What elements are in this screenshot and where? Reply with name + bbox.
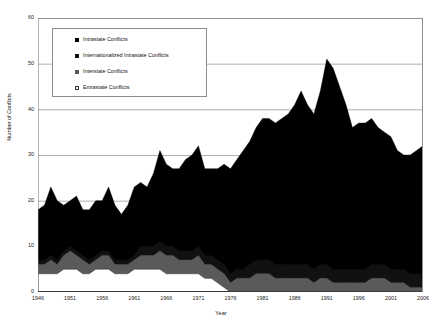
chart-legend: Intrastate ConflictsInternationalized In… [52, 28, 207, 97]
clipped-header-strip: ······· ···· ···· [0, 0, 442, 11]
y-axis-title: Number of Conflicts [6, 77, 12, 157]
x-tick-1976: 1976 [216, 296, 246, 301]
x-tick-2001: 2001 [376, 296, 406, 301]
legend-swatch-interstate-icon [75, 70, 79, 74]
chart-figure: ······· ···· ···· 60 50 40 30 20 10 0 Nu… [0, 0, 442, 326]
x-tick-1966: 1966 [151, 296, 181, 301]
y-tick-60: 60 [18, 15, 34, 20]
legend-swatch-extrastate-icon [75, 86, 79, 90]
legend-item-intrastate[interactable]: Intrastate Conflicts [75, 35, 128, 45]
x-tick-1991: 1991 [312, 296, 342, 301]
y-tick-0: 0 [18, 289, 34, 294]
y-tick-30: 30 [18, 152, 34, 157]
x-tick-1951: 1951 [55, 296, 85, 301]
clipped-header-text: ······· ···· ···· [258, 0, 307, 2]
legend-item-extrastate[interactable]: Extrastate Conflicts [75, 83, 129, 93]
legend-label-extrastate: Extrastate Conflicts [83, 85, 129, 90]
legend-label-internationalized: Internationalized Intrastate Conflicts [83, 53, 169, 58]
x-tick-1986: 1986 [280, 296, 310, 301]
x-tick-2006: 2006 [408, 296, 438, 301]
legend-swatch-internationalized-icon [75, 54, 79, 58]
x-tick-1996: 1996 [344, 296, 374, 301]
x-tick-1956: 1956 [87, 296, 117, 301]
x-axis-title: Year [0, 310, 442, 316]
x-tick-1971: 1971 [183, 296, 213, 301]
legend-label-interstate: Interstate Conflicts [83, 69, 128, 74]
y-tick-10: 10 [18, 243, 34, 248]
legend-item-interstate[interactable]: Interstate Conflicts [75, 67, 128, 77]
legend-label-intrastate: Intrastate Conflicts [83, 37, 128, 42]
legend-item-internationalized[interactable]: Internationalized Intrastate Conflicts [75, 51, 169, 61]
y-tick-20: 20 [18, 198, 34, 203]
y-tick-40: 40 [18, 107, 34, 112]
x-tick-1961: 1961 [119, 296, 149, 301]
legend-swatch-intrastate-icon [75, 38, 79, 42]
y-tick-50: 50 [18, 61, 34, 66]
x-tick-1946: 1946 [23, 296, 53, 301]
x-tick-1981: 1981 [248, 296, 278, 301]
